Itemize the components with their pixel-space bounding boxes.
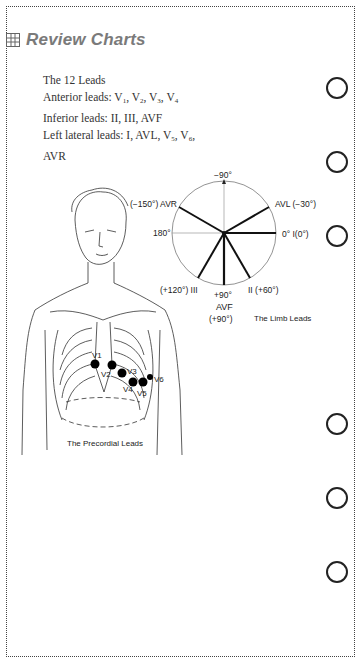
binder-hole bbox=[326, 413, 348, 435]
precordial-leads-diagram: V1 V2 V3 V4 V5 V6 The Precordial Leads bbox=[0, 0, 362, 666]
binder-hole bbox=[326, 77, 348, 99]
binder-hole bbox=[326, 487, 348, 509]
svg-text:V2: V2 bbox=[101, 370, 111, 379]
precordial-caption: The Precordial Leads bbox=[67, 439, 143, 448]
electrode-v6 bbox=[147, 374, 153, 380]
svg-text:V4: V4 bbox=[123, 385, 133, 394]
svg-text:V5: V5 bbox=[137, 389, 147, 398]
binder-hole bbox=[326, 151, 348, 173]
electrode-v3 bbox=[118, 369, 127, 378]
binder-hole bbox=[326, 225, 348, 247]
binder-hole bbox=[326, 561, 348, 583]
svg-text:V6: V6 bbox=[154, 375, 164, 384]
electrode-v5 bbox=[139, 378, 148, 387]
electrode-v1 bbox=[91, 360, 100, 369]
svg-text:V1: V1 bbox=[92, 351, 102, 360]
electrode-v2 bbox=[108, 361, 117, 370]
svg-text:V3: V3 bbox=[127, 367, 137, 376]
